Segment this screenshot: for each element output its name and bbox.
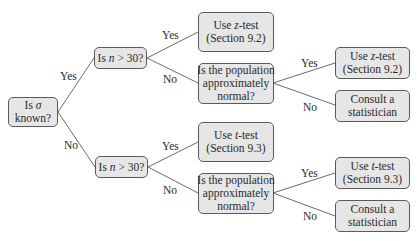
- node-consult-statistician-top-line1: Consult a: [351, 93, 395, 106]
- edge-label-root-yes: Yes: [60, 70, 77, 82]
- edge-label-n-top-no: No: [163, 73, 177, 85]
- node-use-t-test-2-line2: (Section 9.3): [343, 173, 402, 186]
- node-population-normal-top-line2: approximately: [203, 77, 269, 90]
- node-use-t-test-2-line1: Use t-test: [351, 160, 395, 173]
- node-use-t-test-1: Use t-test (Section 9.3): [198, 122, 274, 162]
- node-consult-statistician-bottom-line1: Consult a: [351, 203, 395, 216]
- node-sigma-known-line1: Is σ: [25, 99, 42, 112]
- node-n-greater-30-top-text: Is n > 30?: [98, 52, 144, 65]
- node-use-t-test-1-line1: Use t-test: [214, 129, 258, 142]
- node-n-greater-30-bottom: Is n > 30?: [95, 156, 148, 178]
- node-population-normal-top-line3: normal?: [217, 90, 255, 103]
- node-consult-statistician-top-line2: statistician: [348, 106, 397, 119]
- edge-label-n-bottom-yes: Yes: [162, 140, 179, 152]
- node-use-z-test-1-line2: (Section 9.2): [206, 32, 265, 45]
- node-population-normal-bottom-line3: normal?: [217, 200, 255, 213]
- node-population-normal-bottom-line1: Is the population: [197, 174, 274, 187]
- node-consult-statistician-bottom: Consult a statistician: [335, 200, 410, 232]
- node-sigma-known-line2: known?: [15, 112, 51, 125]
- node-population-normal-top-line1: Is the population: [197, 64, 274, 77]
- node-n-greater-30-bottom-text: Is n > 30?: [99, 161, 145, 174]
- node-use-z-test-2-line2: (Section 9.2): [343, 63, 402, 76]
- node-population-normal-top: Is the population approximately normal?: [198, 63, 274, 104]
- node-consult-statistician-top: Consult a statistician: [335, 90, 410, 122]
- node-consult-statistician-bottom-line2: statistician: [348, 216, 397, 229]
- node-sigma-known: Is σ known?: [8, 97, 58, 127]
- node-use-z-test-2: Use z-test (Section 9.2): [335, 47, 410, 79]
- edge-root-yes: [58, 58, 94, 112]
- edge-label-normal-top-yes: Yes: [301, 57, 318, 69]
- edge-label-normal-top-no: No: [303, 101, 317, 113]
- node-use-z-test-1: Use z-test (Section 9.2): [198, 12, 274, 52]
- node-use-z-test-2-line1: Use z-test: [350, 50, 395, 63]
- node-n-greater-30-top: Is n > 30?: [94, 47, 147, 69]
- edge-label-n-bottom-no: No: [163, 184, 177, 196]
- node-population-normal-bottom: Is the population approximately normal?: [198, 173, 274, 214]
- node-population-normal-bottom-line2: approximately: [203, 187, 269, 200]
- edge-label-root-no: No: [64, 139, 78, 151]
- edge-label-normal-bottom-no: No: [303, 210, 317, 222]
- node-use-t-test-1-line2: (Section 9.3): [206, 142, 265, 155]
- edge-label-n-top-yes: Yes: [162, 29, 179, 41]
- node-use-z-test-1-line1: Use z-test: [213, 19, 258, 32]
- edge-label-normal-bottom-yes: Yes: [301, 167, 318, 179]
- node-use-t-test-2: Use t-test (Section 9.3): [335, 157, 410, 189]
